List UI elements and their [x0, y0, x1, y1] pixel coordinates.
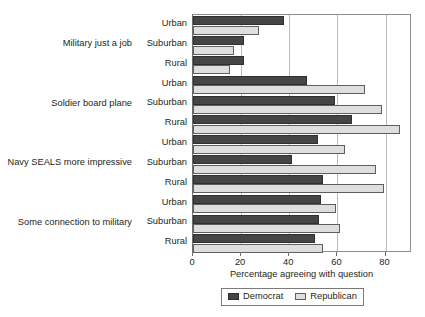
bar-democrat: [193, 175, 323, 184]
bar-republican: [193, 184, 384, 193]
bar-democrat: [193, 135, 318, 144]
category-group-title: Some connection to military: [0, 217, 139, 228]
bar-row: [193, 85, 412, 94]
bar-row: [193, 204, 412, 213]
bar-row: [193, 184, 412, 193]
bar-row: [193, 195, 412, 204]
plot-area: [192, 14, 411, 252]
x-tick-label: 80: [379, 256, 389, 268]
category-group: Soldier board plane Urban Suburban Rural: [0, 74, 190, 134]
bar-republican: [193, 65, 230, 74]
bar-row: [193, 96, 412, 105]
bar-democrat: [193, 56, 244, 65]
bar-democrat: [193, 36, 244, 45]
x-axis: 020406080: [192, 252, 411, 268]
chart-legend: Democrat Republican: [221, 288, 364, 306]
bar-row: [193, 26, 412, 35]
bar-row: [193, 135, 412, 144]
category-subgroup-labels: Urban Suburban Rural: [139, 14, 190, 73]
category-axis-labels: Military just a job Urban Suburban Rural…: [0, 14, 190, 252]
bar-republican: [193, 26, 259, 35]
subcategory-label: Urban: [139, 133, 187, 153]
subcategory-label: Rural: [139, 232, 187, 252]
grouped-bar-chart: Military just a job Urban Suburban Rural…: [0, 0, 425, 317]
bar-republican: [193, 145, 345, 154]
legend-entry-democrat: Democrat: [228, 291, 283, 302]
bar-republican: [193, 85, 365, 94]
bar-row: [193, 46, 412, 55]
x-tick-label: 60: [331, 256, 341, 268]
bar-row: [193, 224, 412, 233]
bar-row: [193, 36, 412, 45]
bar-republican: [193, 125, 400, 134]
bar-democrat: [193, 195, 321, 204]
category-group-title: Navy SEALS more impressive: [0, 157, 139, 168]
category-group-title: Soldier board plane: [0, 98, 139, 109]
bar-row: [193, 65, 412, 74]
bar-democrat: [193, 96, 335, 105]
bar-republican: [193, 204, 336, 213]
bar-row: [193, 76, 412, 85]
category-group: Some connection to military Urban Suburb…: [0, 193, 190, 253]
bar-row: [193, 175, 412, 184]
bar-democrat: [193, 76, 307, 85]
x-tick-label: 40: [283, 256, 293, 268]
category-subgroup-labels: Urban Suburban Rural: [139, 74, 190, 133]
bar-row: [193, 155, 412, 164]
bar-row: [193, 165, 412, 174]
bar-democrat: [193, 234, 315, 243]
subcategory-label: Suburban: [139, 34, 187, 54]
bar-republican: [193, 105, 382, 114]
bar-row: [193, 115, 412, 124]
category-subgroup-labels: Urban Suburban Rural: [139, 193, 190, 252]
subcategory-label: Rural: [139, 113, 187, 133]
bar-democrat: [193, 215, 319, 224]
bar-democrat: [193, 115, 352, 124]
category-group-title: Military just a job: [0, 38, 139, 49]
legend-label: Republican: [310, 291, 357, 302]
bar-row: [193, 56, 412, 65]
bar-row: [193, 234, 412, 243]
subcategory-label: Suburban: [139, 93, 187, 113]
subcategory-label: Rural: [139, 54, 187, 74]
bar-republican: [193, 46, 234, 55]
subcategory-label: Rural: [139, 173, 187, 193]
subcategory-label: Urban: [139, 14, 187, 34]
category-subgroup-labels: Urban Suburban Rural: [139, 133, 190, 192]
bar-row: [193, 105, 412, 114]
bar-democrat: [193, 155, 292, 164]
x-tick-label: 0: [189, 256, 194, 268]
bar-democrat: [193, 16, 284, 25]
subcategory-label: Suburban: [139, 212, 187, 232]
bar-row: [193, 215, 412, 224]
bar-row: [193, 125, 412, 134]
bar-republican: [193, 165, 376, 174]
legend-swatch-icon: [228, 293, 239, 300]
legend-swatch-icon: [295, 293, 306, 300]
subcategory-label: Suburban: [139, 153, 187, 173]
category-group: Navy SEALS more impressive Urban Suburba…: [0, 133, 190, 193]
bar-row: [193, 145, 412, 154]
x-tick-label: 20: [235, 256, 245, 268]
subcategory-label: Urban: [139, 193, 187, 213]
legend-label: Democrat: [243, 291, 283, 302]
x-axis-title: Percentage agreeing with question: [192, 268, 411, 280]
subcategory-label: Urban: [139, 74, 187, 94]
category-group: Military just a job Urban Suburban Rural: [0, 14, 190, 74]
legend-entry-republican: Republican: [295, 291, 357, 302]
bar-republican: [193, 224, 340, 233]
bar-row: [193, 16, 412, 25]
